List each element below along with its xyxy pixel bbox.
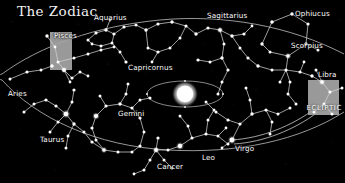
label-aries: Aries — [8, 90, 27, 97]
label-aquarius: Aquarius — [94, 14, 127, 21]
label-sagittarius: Sagittarius — [207, 12, 247, 19]
label-ophiucus: Ophiucus — [295, 10, 330, 17]
label-gemini: Gemini — [118, 110, 144, 117]
label-libra: Libra — [318, 71, 337, 78]
label-cancer: Cancer — [157, 163, 183, 170]
label-ecliptic: ECLIPTIC — [306, 105, 342, 112]
label-capricornus: Capricornus — [128, 64, 173, 71]
label-scorpius: Scorpius — [291, 42, 323, 49]
label-pisces: Pisces — [54, 32, 77, 39]
label-virgo: Virgo — [235, 145, 254, 152]
label-taurus: Taurus — [40, 136, 64, 143]
sky-canvas — [0, 0, 345, 183]
sun — [172, 81, 198, 107]
page-title: The Zodiac — [17, 5, 98, 19]
zodiac-diagram: The Zodiac Pisces Aquarius Capricornus S… — [0, 0, 345, 183]
label-leo: Leo — [202, 154, 215, 161]
